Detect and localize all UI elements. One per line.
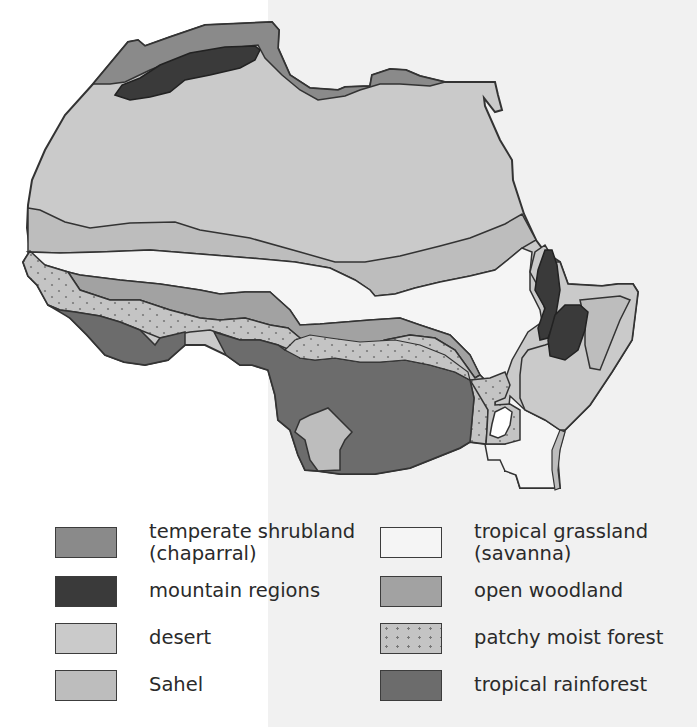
legend-item-mountain: mountain regions — [55, 576, 320, 607]
legend-label: patchy moist forest — [474, 627, 663, 649]
legend-item-savanna: tropical grassland (savanna) — [380, 527, 648, 565]
legend-label: temperate shrubland (chaparral) — [149, 521, 355, 565]
legend-item-sahel: Sahel — [55, 670, 203, 701]
legend-label: mountain regions — [149, 580, 320, 602]
legend-item-open-woodland: open woodland — [380, 576, 623, 607]
swatch-desert — [55, 623, 117, 654]
legend-item-patchy-moist-forest: patchy moist forest — [380, 623, 663, 654]
legend-item-desert: desert — [55, 623, 211, 654]
map-legend: temperate shrubland (chaparral) mountain… — [0, 0, 697, 727]
swatch-savanna — [380, 527, 442, 558]
legend-item-temperate-shrubland: temperate shrubland (chaparral) — [55, 527, 355, 565]
legend-item-tropical-rainforest: tropical rainforest — [380, 670, 647, 701]
legend-label: tropical rainforest — [474, 674, 647, 696]
swatch-tropical-rainforest — [380, 670, 442, 701]
legend-label: open woodland — [474, 580, 623, 602]
legend-label: Sahel — [149, 674, 203, 696]
swatch-open-woodland — [380, 576, 442, 607]
swatch-sahel — [55, 670, 117, 701]
legend-label: desert — [149, 627, 211, 649]
legend-label: tropical grassland (savanna) — [474, 521, 648, 565]
swatch-temperate-shrubland — [55, 527, 117, 558]
swatch-patchy-moist-forest — [380, 623, 442, 654]
swatch-mountain — [55, 576, 117, 607]
